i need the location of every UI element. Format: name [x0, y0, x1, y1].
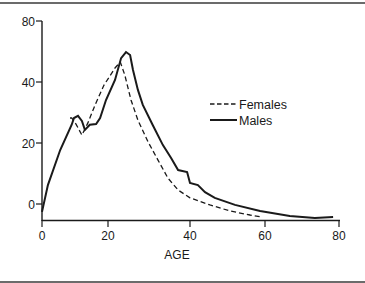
- x-tick-label: 40: [183, 229, 197, 243]
- x-tick-label: 20: [101, 229, 115, 243]
- x-tick-label: 0: [39, 229, 46, 243]
- x-axis-title: AGE: [164, 248, 189, 262]
- age-distribution-chart: 8040200 020406080 AGE Females Males: [0, 0, 365, 283]
- x-ticks: 020406080: [39, 220, 346, 243]
- females-line: [70, 62, 262, 217]
- y-tick-label: 40: [22, 76, 36, 90]
- females-legend-label: Females: [239, 98, 287, 112]
- x-tick-label: 60: [258, 229, 272, 243]
- y-tick-label: 20: [22, 137, 36, 151]
- axes: 8040200 020406080 AGE: [22, 15, 346, 263]
- x-tick-label: 80: [332, 229, 346, 243]
- legend: Females Males: [210, 98, 287, 128]
- males-line: [42, 52, 333, 218]
- y-ticks: 8040200: [22, 15, 42, 212]
- y-tick-label: 0: [28, 198, 35, 212]
- y-tick-label: 80: [22, 15, 36, 29]
- plot-area: [42, 52, 333, 218]
- males-legend-label: Males: [239, 114, 272, 128]
